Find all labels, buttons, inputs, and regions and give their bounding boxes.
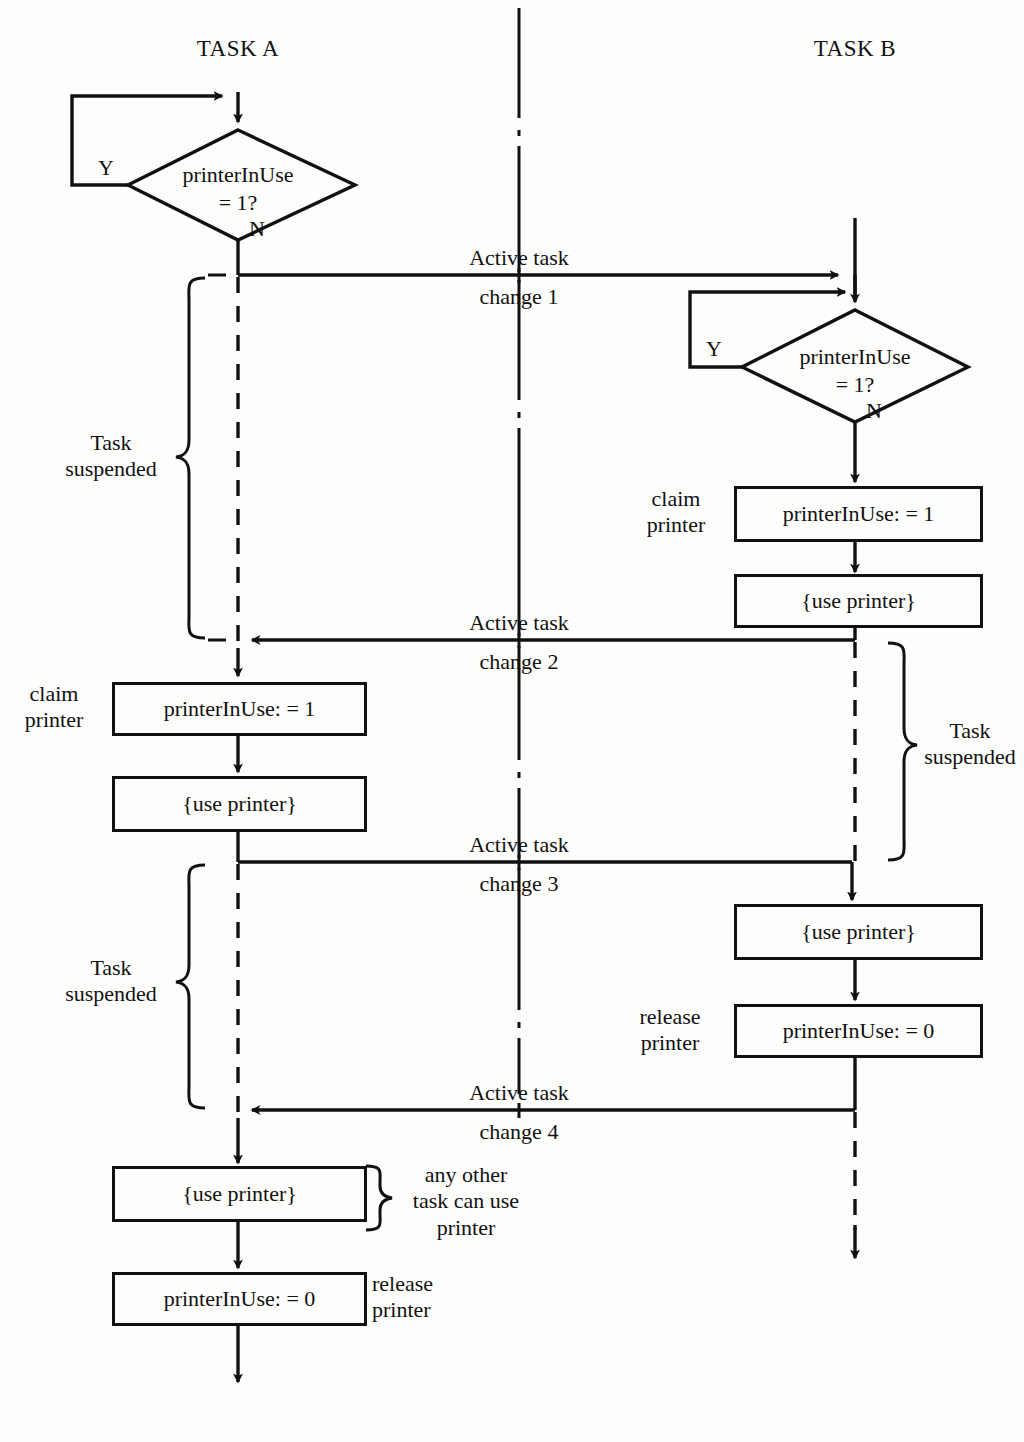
process-box-a-use-1-text: {use printer} (182, 791, 297, 817)
decision-b-no-label: N (866, 398, 882, 424)
brace-a-suspend-2 (176, 865, 205, 1108)
annotation-b-claim-printer: claimprinter (624, 486, 728, 539)
process-box-b-release-text: printerInUse: = 0 (783, 1018, 935, 1044)
decision-a-yes-label: Y (98, 155, 114, 181)
annotation-a-claim-printer: claimprinter (4, 681, 104, 734)
transition-4-top-label: Active task (421, 1080, 617, 1106)
process-box-b-claim-text: printerInUse: = 1 (783, 501, 935, 527)
brace-b-suspend-1 (888, 643, 917, 860)
lane-title-task-a: TASK A (158, 36, 318, 63)
brace-any-other-task (366, 1166, 392, 1230)
lane-stub-marks (208, 275, 226, 640)
process-box-a-use-1: {use printer} (112, 776, 367, 832)
transition-4-bottom-label: change 4 (421, 1119, 617, 1145)
process-box-a-use-2: {use printer} (112, 1166, 367, 1222)
annotation-b-release-printer: releaseprinter (612, 1004, 728, 1057)
decision-a-line2: = 1? (148, 190, 328, 216)
annotation-a-release-printer: releaseprinter (372, 1271, 488, 1324)
flowchart-canvas: TASK A TASK B printerInUse = 1? Y N prin… (0, 0, 1024, 1442)
decision-b-line1: printerInUse (765, 344, 945, 370)
process-box-b-use-1-text: {use printer} (801, 588, 916, 614)
process-box-a-release-text: printerInUse: = 0 (164, 1286, 316, 1312)
transition-2-bottom-label: change 2 (421, 649, 617, 675)
process-box-a-use-2-text: {use printer} (182, 1181, 297, 1207)
transition-2-top-label: Active task (421, 610, 617, 636)
process-box-b-use-2-text: {use printer} (801, 919, 916, 945)
lane-title-task-b: TASK B (775, 36, 935, 63)
decision-a-line1: printerInUse (148, 162, 328, 188)
annotation-b-task-suspended-1: Tasksuspended (916, 718, 1024, 771)
transition-3-bottom-label: change 3 (421, 871, 617, 897)
process-box-b-release: printerInUse: = 0 (734, 1004, 983, 1058)
process-box-b-use-1: {use printer} (734, 574, 983, 628)
brace-a-suspend-1 (176, 278, 205, 638)
annotation-any-other-task: any othertask can useprinter (390, 1162, 542, 1241)
process-box-b-claim: printerInUse: = 1 (734, 486, 983, 542)
decision-b-yes-label: Y (706, 336, 722, 362)
transition-3-top-label: Active task (421, 832, 617, 858)
decision-a-no-label: N (249, 216, 265, 242)
process-box-b-use-2: {use printer} (734, 904, 983, 960)
decision-b-line2: = 1? (765, 372, 945, 398)
transition-1-top-label: Active task (421, 245, 617, 271)
process-box-a-claim-text: printerInUse: = 1 (164, 696, 316, 722)
process-box-a-release: printerInUse: = 0 (112, 1272, 367, 1326)
process-box-a-claim: printerInUse: = 1 (112, 682, 367, 736)
annotation-a-task-suspended-1: Tasksuspended (46, 430, 176, 483)
transition-1-bottom-label: change 1 (421, 284, 617, 310)
annotation-a-task-suspended-2: Tasksuspended (46, 955, 176, 1008)
